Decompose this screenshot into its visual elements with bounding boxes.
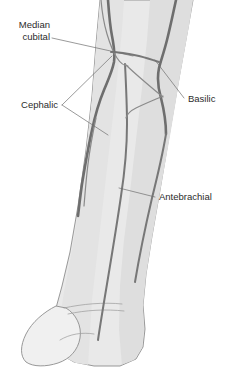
- anatomy-illustration: Median cubital Cephalic Basilic Antebrac…: [0, 0, 225, 367]
- label-antebrachial: Antebrachial: [159, 191, 212, 202]
- label-cephalic: Cephalic: [21, 99, 58, 110]
- forearm-vein-diagram: Median cubital Cephalic Basilic Antebrac…: [0, 0, 225, 367]
- label-median-cubital-line1: Median: [19, 19, 50, 30]
- label-median-cubital-line2: cubital: [23, 31, 50, 42]
- forearm-silhouette: [22, 0, 201, 366]
- label-basilic: Basilic: [188, 93, 216, 104]
